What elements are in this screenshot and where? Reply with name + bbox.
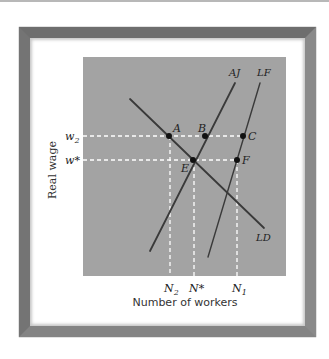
label-LF: LF xyxy=(256,67,272,78)
labor-market-diagram: A B C E F AJ LF LD w2 w* N2 N* N1 Number… xyxy=(0,0,329,359)
tick-Nstar: N* xyxy=(188,282,205,295)
label-B: B xyxy=(197,122,206,135)
point-F xyxy=(234,157,240,163)
tick-wstar: w* xyxy=(65,154,80,167)
tick-w2: w2 xyxy=(65,130,80,145)
tick-N2: N2 xyxy=(163,282,179,297)
label-LD: LD xyxy=(255,232,271,243)
point-C xyxy=(240,133,246,139)
point-A xyxy=(166,133,172,139)
label-C: C xyxy=(248,130,257,143)
label-AJ: AJ xyxy=(228,67,241,78)
label-A: A xyxy=(172,122,181,135)
point-E xyxy=(190,157,196,163)
label-E: E xyxy=(180,162,189,175)
label-F: F xyxy=(241,154,250,167)
x-axis-title: Number of workers xyxy=(132,296,237,309)
y-axis-title: Real wage xyxy=(46,141,59,199)
tick-N1: N1 xyxy=(231,282,247,297)
